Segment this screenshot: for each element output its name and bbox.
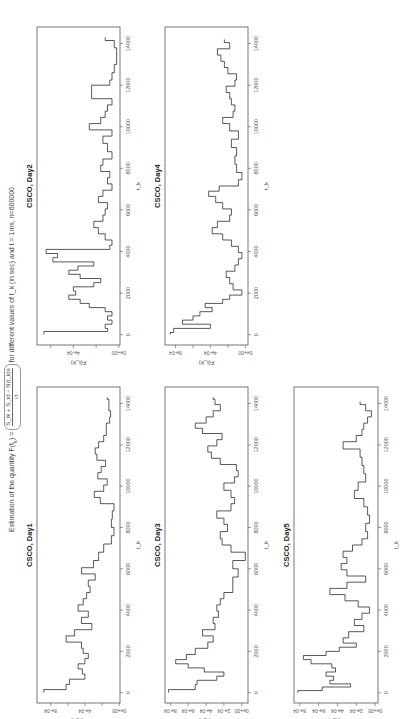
x-tick-label: 0 — [383, 691, 389, 694]
plot-panel-csco-day1: CSCO, Day1020004000600080001000012000140… — [37, 387, 120, 703]
formula-denominator: √t — [13, 368, 20, 425]
series-line — [44, 37, 117, 334]
y-tick-label: 2e-04 — [217, 708, 230, 714]
x-tick-label: 10000 — [253, 119, 259, 134]
x-tick-label: 10000 — [383, 478, 389, 493]
x-tick-label: 10000 — [253, 478, 259, 493]
title-eq: ) = — [8, 432, 15, 440]
y-tick-label: 8e-04 — [164, 708, 177, 714]
x-tick-label: 2000 — [383, 645, 389, 657]
x-tick-label: 0 — [125, 691, 131, 694]
x-axis-label: t_k — [393, 540, 399, 549]
title-sub: k — [12, 440, 18, 443]
x-tick-label: 2000 — [253, 645, 259, 657]
y-tick-label: 8e-04 — [44, 708, 57, 714]
title-formula: S_tk + S_td − N(t_k)s √t — [4, 364, 21, 429]
x-tick-label: 6000 — [383, 563, 389, 575]
y-tick-label: 4e-04 — [204, 350, 217, 356]
x-tick-label: 14000 — [253, 396, 259, 411]
y-tick-label: 4e-04 — [67, 350, 80, 356]
panel-title: CSCO, Day2 — [25, 164, 34, 208]
y-tick-label: 4e-04 — [78, 708, 91, 714]
y-tick-label: 0e+00 — [238, 350, 252, 356]
y-tick-label: 4e-04 — [199, 708, 212, 714]
x-axis-label: t_k — [135, 181, 141, 190]
series-line — [298, 402, 372, 693]
x-tick-label: 6000 — [125, 204, 131, 216]
x-tick-label: 12000 — [125, 437, 131, 452]
figure-title: Estimation of the quantity F(tk) = S_tk … — [4, 0, 21, 719]
y-tick-label: 6e-04 — [182, 708, 195, 714]
y-tick-label: 2e-04 — [350, 708, 363, 714]
y-axis-label: F(t_k) — [71, 360, 87, 366]
panel-title: CSCO, Day5 — [282, 523, 291, 567]
x-tick-label: 4000 — [253, 245, 259, 257]
x-tick-label: 8000 — [125, 162, 131, 174]
x-tick-label: 6000 — [253, 204, 259, 216]
plot-panel-csco-day3: CSCO, Day3020004000600080001000012000140… — [165, 387, 248, 703]
x-tick-label: 14000 — [253, 36, 259, 51]
series-line — [44, 397, 114, 692]
x-axis-label: t_k — [135, 540, 141, 549]
x-tick-label: 4000 — [383, 604, 389, 616]
line-plot: 02000400060008000100001200014000t_k0e+00… — [37, 387, 142, 703]
x-tick-label: 0 — [253, 691, 259, 694]
x-tick-label: 14000 — [383, 396, 389, 411]
x-tick-label: 4000 — [253, 604, 259, 616]
x-tick-label: 12000 — [125, 78, 131, 93]
panel-title: CSCO, Day3 — [153, 523, 162, 567]
y-tick-label: 0e+00 — [235, 708, 249, 714]
plot-panel-csco-day5: CSCO, Day5020004000600080001000012000140… — [294, 387, 378, 703]
plot-panel-csco-day4: CSCO, Day4020004000600080001000012000140… — [165, 27, 248, 345]
plot-panel-csco-day2: CSCO, Day2020004000600080001000012000140… — [37, 27, 120, 345]
x-tick-label: 12000 — [253, 437, 259, 452]
x-tick-label: 4000 — [125, 604, 131, 616]
x-tick-label: 6000 — [125, 563, 131, 575]
x-tick-label: 4000 — [125, 245, 131, 257]
line-plot: 02000400060008000100001200014000t_k0e+00… — [165, 27, 270, 345]
panel-title: CSCO, Day1 — [25, 523, 34, 567]
x-tick-label: 0 — [253, 333, 259, 336]
y-tick-label: 8e-04 — [169, 350, 182, 356]
y-tick-label: 8e-04 — [293, 708, 306, 714]
x-tick-label: 10000 — [125, 119, 131, 134]
x-tick-label: 14000 — [125, 396, 131, 411]
title-suffix: for different values of t_k (in sec) and… — [8, 187, 15, 362]
line-plot: 02000400060008000100001200014000t_k0e+00… — [165, 387, 270, 703]
y-tick-label: 4e-04 — [331, 708, 344, 714]
x-tick-label: 12000 — [253, 78, 259, 93]
x-tick-label: 2000 — [125, 645, 131, 657]
x-tick-label: 2000 — [125, 287, 131, 299]
x-tick-label: 10000 — [125, 478, 131, 493]
y-tick-label: 6e-04 — [312, 708, 325, 714]
title-text: Estimation of the quantity F(t — [8, 443, 15, 532]
y-axis-label: F(t_k) — [199, 360, 215, 366]
x-tick-label: 6000 — [253, 563, 259, 575]
plot-frame — [37, 27, 120, 345]
formula-numerator: S_tk + S_td − N(t_k)s — [5, 368, 13, 425]
figure-page: Estimation of the quantity F(tk) = S_tk … — [0, 0, 405, 719]
line-plot: 02000400060008000100001200014000t_k0e+00… — [294, 387, 400, 703]
x-tick-label: 8000 — [383, 521, 389, 533]
x-tick-label: 0 — [125, 333, 131, 336]
x-tick-label: 12000 — [383, 437, 389, 452]
x-tick-label: 8000 — [125, 521, 131, 533]
x-axis-label: t_k — [263, 540, 269, 549]
x-tick-label: 14000 — [125, 36, 131, 51]
plot-frame — [37, 387, 120, 703]
y-tick-label: 0e+00 — [112, 350, 126, 356]
y-tick-label: 0e+00 — [368, 708, 382, 714]
x-tick-label: 8000 — [253, 521, 259, 533]
panel-title: CSCO, Day4 — [153, 164, 162, 208]
x-tick-label: 2000 — [253, 287, 259, 299]
x-axis-label: t_k — [263, 181, 269, 190]
plot-frame — [165, 387, 248, 703]
series-line — [170, 40, 242, 335]
x-tick-label: 8000 — [253, 162, 259, 174]
line-plot: 02000400060008000100001200014000t_k0e+00… — [37, 27, 142, 345]
series-line — [169, 397, 246, 692]
y-tick-label: 0e+00 — [112, 708, 126, 714]
